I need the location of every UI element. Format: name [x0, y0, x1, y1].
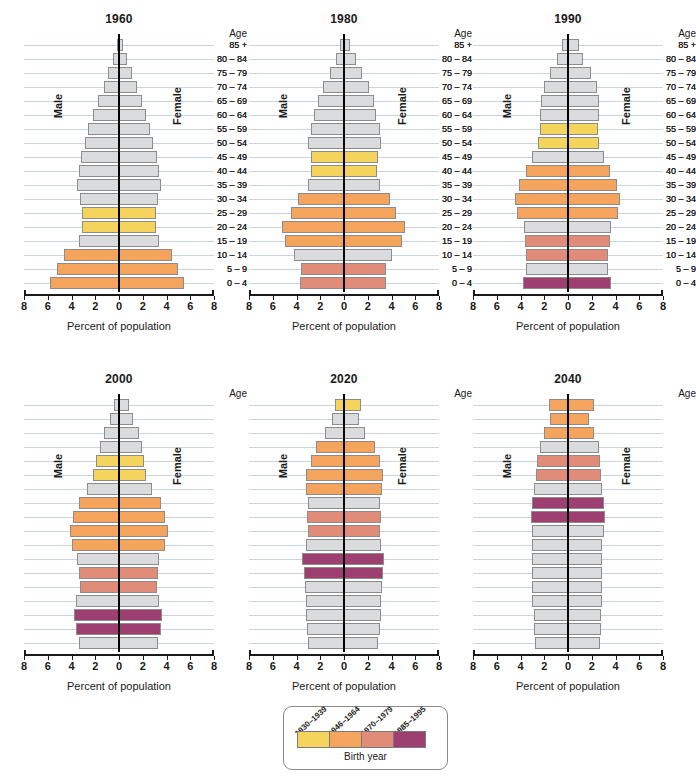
age-label: 5 – 9: [648, 264, 696, 274]
bar-male: [306, 595, 344, 608]
bar-female: [568, 427, 594, 440]
bar-female: [344, 413, 359, 426]
age-label: 80 – 84: [424, 54, 472, 64]
bar-male: [301, 263, 344, 276]
bar-male: [76, 623, 119, 636]
bar-female: [568, 95, 599, 108]
bar-male: [535, 637, 568, 650]
bar-female: [568, 637, 600, 650]
bar-female: [119, 81, 137, 94]
x-axis-tick-label: 0: [341, 660, 347, 672]
bar-male: [100, 441, 119, 454]
bar-female: [344, 511, 381, 524]
bar-female: [344, 179, 380, 192]
bar-female: [344, 623, 380, 636]
bar-male: [540, 441, 569, 454]
x-axis-tick-label: 4: [163, 660, 169, 672]
bar-male: [77, 179, 119, 192]
bar-female: [344, 249, 392, 262]
bar-male: [526, 263, 568, 276]
center-axis-line: [343, 34, 345, 292]
bar-female: [119, 525, 168, 538]
bar-male: [549, 399, 568, 412]
bar-male: [534, 623, 568, 636]
x-axis-tick-label: 8: [21, 660, 27, 672]
male-label: Male: [501, 454, 513, 478]
bar-female: [119, 137, 153, 150]
bar-female: [568, 441, 599, 454]
bar-female: [568, 207, 618, 220]
x-axis-tick-label: 2: [541, 660, 547, 672]
x-axis-tick-label: 4: [388, 300, 394, 312]
age-label: 15 – 19: [424, 236, 472, 246]
bar-male: [544, 427, 568, 440]
bar-female: [119, 151, 157, 164]
age-label: 5 – 9: [199, 264, 247, 274]
bar-male: [540, 123, 569, 136]
panel-title: 1960: [6, 12, 232, 26]
x-axis-tick-label: 6: [494, 660, 500, 672]
age-label: 60 – 64: [199, 110, 247, 120]
bar-female: [344, 455, 380, 468]
bar-female: [568, 263, 608, 276]
x-axis-tick-label: 6: [45, 660, 51, 672]
bar-male: [93, 469, 119, 482]
plot-area: [473, 398, 663, 650]
bar-male: [308, 137, 344, 150]
x-axis-tick-label: 6: [187, 660, 193, 672]
female-label: Female: [396, 87, 408, 125]
bar-male: [79, 235, 119, 248]
age-label: 10 – 14: [199, 250, 247, 260]
x-axis-tick-label: 6: [270, 660, 276, 672]
bar-female: [344, 595, 381, 608]
x-axis-tick-label: 6: [412, 660, 418, 672]
bar-female: [344, 109, 376, 122]
age-label: 35 – 39: [424, 180, 472, 190]
age-label: 45 – 49: [424, 152, 472, 162]
bar-male: [76, 595, 119, 608]
bar-female: [119, 221, 156, 234]
x-axis-tick-label: 4: [293, 660, 299, 672]
female-label: Female: [396, 447, 408, 485]
male-label: Male: [501, 94, 513, 118]
age-label: 45 – 49: [199, 152, 247, 162]
bar-male: [81, 151, 119, 164]
bar-female: [568, 567, 602, 580]
bar-female: [568, 609, 601, 622]
age-label: 50 – 54: [648, 138, 696, 148]
bar-male: [531, 511, 568, 524]
bar-female: [568, 179, 617, 192]
age-label: 55 – 59: [424, 124, 472, 134]
bar-male: [323, 81, 344, 94]
bar-male: [517, 207, 568, 220]
panel-title: 1990: [455, 12, 681, 26]
bar-female: [344, 469, 383, 482]
bar-female: [568, 249, 608, 262]
bar-male: [70, 525, 119, 538]
bar-male: [308, 497, 344, 510]
bar-female: [568, 165, 610, 178]
bar-female: [568, 221, 611, 234]
bar-female: [568, 483, 602, 496]
bar-male: [325, 427, 344, 440]
age-column-header: Age: [648, 28, 696, 39]
bar-female: [568, 539, 602, 552]
bar-female: [344, 399, 361, 412]
bar-female: [344, 637, 378, 650]
bar-female: [568, 497, 604, 510]
bar-male: [50, 277, 119, 290]
bar-male: [306, 483, 344, 496]
bar-female: [344, 207, 396, 220]
bar-female: [119, 249, 172, 262]
bar-male: [536, 469, 568, 482]
bar-female: [568, 399, 594, 412]
bar-female: [119, 441, 142, 454]
bar-male: [57, 263, 119, 276]
panel-title: 2000: [6, 372, 232, 386]
bar-male: [79, 637, 119, 650]
bar-female: [119, 207, 156, 220]
age-label: 85 +: [199, 40, 247, 50]
x-axis: [249, 294, 439, 296]
male-label: Male: [52, 454, 64, 478]
